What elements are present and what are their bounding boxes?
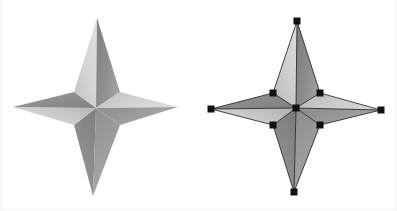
vertex-marker-inner-bottom-left bbox=[270, 122, 277, 129]
face-top-left bbox=[74, 18, 97, 108]
vertex-marker-inner-top-right bbox=[317, 90, 324, 97]
vertex-marker-center bbox=[293, 105, 300, 112]
wireframe-star-figure bbox=[198, 0, 397, 211]
figure-panel-right bbox=[198, 0, 397, 211]
vertex-marker-inner-top-left bbox=[270, 90, 277, 97]
vertex-marker-inner-bottom-right bbox=[317, 122, 324, 129]
vertex-marker-right bbox=[378, 107, 385, 114]
vertex-marker-bottom bbox=[291, 189, 298, 196]
vertex-marker-left bbox=[208, 106, 215, 113]
vertex-marker-top bbox=[294, 18, 301, 25]
figure-canvas bbox=[0, 0, 397, 211]
star-face-group bbox=[13, 18, 178, 196]
shaded-star-figure bbox=[0, 0, 199, 211]
figure-panel-left bbox=[0, 0, 199, 211]
